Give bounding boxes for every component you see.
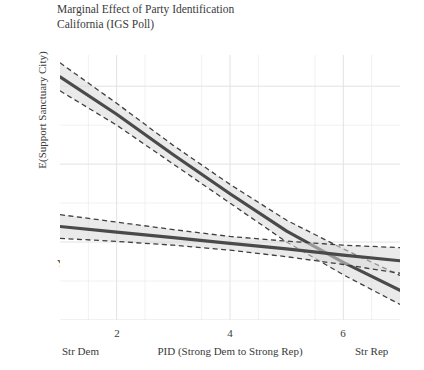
y-axis-title: E(Support Sanctuary City): [36, 20, 48, 200]
x-tick-6: 6: [340, 327, 346, 339]
chart-root: Marginal Effect of Party Identification …: [0, 0, 424, 370]
x-axis-title: PID (Strong Dem to Strong Rep): [60, 345, 400, 357]
x-end-label-right: Str Rep: [355, 345, 388, 357]
plot-panel: [60, 55, 400, 320]
title-line-2: California (IGS Poll): [57, 17, 234, 32]
x-tick-4: 4: [227, 327, 233, 339]
chart-title: Marginal Effect of Party Identification …: [57, 2, 234, 32]
plot-area: [60, 55, 400, 320]
x-tick-2: 2: [114, 327, 120, 339]
title-line-1: Marginal Effect of Party Identification: [57, 2, 234, 17]
x-end-label-left: Str Dem: [62, 345, 99, 357]
